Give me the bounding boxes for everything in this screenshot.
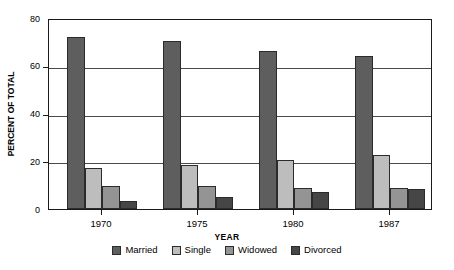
bar	[373, 155, 391, 209]
y-axis-tick-label: 0	[0, 206, 40, 215]
x-axis-tick-label: 1987	[359, 218, 419, 229]
bar	[312, 192, 330, 209]
legend-swatch-icon	[112, 246, 121, 255]
bar	[216, 197, 234, 209]
chart-legend: MarriedSingleWidowedDivorced	[0, 245, 454, 255]
plot-area	[48, 19, 432, 210]
gridline	[49, 116, 431, 117]
bar	[181, 165, 199, 209]
y-axis-tick-label: 20	[0, 158, 40, 167]
y-axis-tick-label: 60	[0, 62, 40, 71]
bar	[355, 56, 373, 209]
bar	[102, 186, 120, 209]
legend-label: Married	[125, 245, 157, 255]
x-axis-tick-mark	[293, 210, 294, 215]
x-axis-tick-label: 1980	[263, 218, 323, 229]
bar	[294, 188, 312, 209]
y-axis-tick-label: 40	[0, 110, 40, 119]
x-axis-tick-mark	[389, 210, 390, 215]
x-axis-tick-label: 1975	[167, 218, 227, 229]
x-axis-tick-mark	[101, 210, 102, 215]
legend-label: Widowed	[238, 245, 277, 255]
bar	[390, 188, 408, 209]
bar	[163, 41, 181, 209]
bar	[85, 168, 103, 209]
x-axis-tick-mark	[197, 210, 198, 215]
legend-item[interactable]: Married	[112, 245, 157, 255]
bar	[120, 201, 138, 209]
legend-swatch-icon	[291, 246, 300, 255]
y-axis-ticks: 020406080	[0, 0, 48, 270]
legend-item[interactable]: Single	[172, 245, 211, 255]
legend-swatch-icon	[172, 246, 181, 255]
x-axis-tick-label: 1970	[71, 218, 131, 229]
bar	[198, 186, 216, 209]
bar	[277, 160, 295, 209]
gridline	[49, 68, 431, 69]
legend-label: Divorced	[304, 245, 342, 255]
y-axis-tick-label: 80	[0, 15, 40, 24]
bar	[67, 37, 85, 209]
bar	[259, 51, 277, 209]
bar	[408, 189, 426, 209]
x-axis-title: YEAR	[0, 232, 454, 242]
legend-item[interactable]: Divorced	[291, 245, 342, 255]
legend-item[interactable]: Widowed	[225, 245, 277, 255]
bar-chart: PERCENT OF TOTAL 020406080 1970197519801…	[0, 0, 454, 270]
legend-label: Single	[185, 245, 211, 255]
legend-swatch-icon	[225, 246, 234, 255]
